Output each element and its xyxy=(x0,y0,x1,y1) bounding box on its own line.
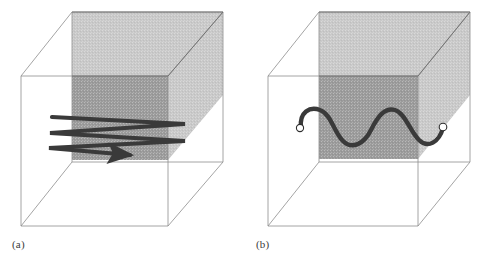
panel-a xyxy=(21,12,223,226)
figure-root xyxy=(0,0,480,264)
right-endpoint-marker xyxy=(439,123,447,131)
panel-b xyxy=(268,12,470,226)
panel-a-label: (a) xyxy=(12,238,25,250)
cube-b xyxy=(268,12,470,226)
left-endpoint-marker xyxy=(296,124,303,131)
panel-b-label: (b) xyxy=(256,238,269,250)
